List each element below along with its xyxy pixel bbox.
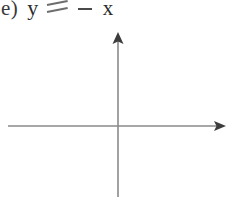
- problem-label: e): [1, 0, 18, 23]
- equation-statement: e)yx: [0, 0, 232, 23]
- dependent-variable-y: y: [27, 0, 39, 23]
- coordinate-plane: [0, 25, 232, 197]
- independent-variable-x: x: [103, 0, 114, 23]
- axes-drawing: [0, 25, 232, 197]
- minus-sign-icon: [78, 8, 92, 10]
- equals-sign-icon: [47, 0, 69, 19]
- worksheet-problem-card: e)yx: [0, 0, 232, 197]
